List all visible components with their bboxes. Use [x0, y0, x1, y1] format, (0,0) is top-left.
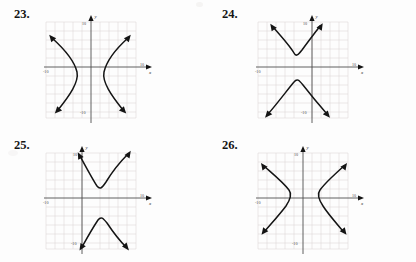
hyperbola-curves — [49, 35, 131, 114]
hyperbola-right-branch — [319, 166, 344, 231]
y-axis-name: y — [85, 145, 89, 150]
curve-arrow-upper-left — [261, 163, 268, 171]
y-negative-tick-label: -10 — [301, 110, 306, 115]
x-negative-tick-label: -10 — [43, 69, 48, 74]
hyperbola-lower-branch — [82, 218, 126, 247]
hyperbola-curves — [78, 151, 131, 251]
graph-25: 10 -10 -10 10 y x — [44, 150, 162, 254]
x-positive-tick-label: 10 — [140, 193, 144, 198]
grid-lines — [46, 153, 136, 249]
hyperbola-curves — [265, 23, 330, 118]
y-positive-tick-label: 10 — [294, 152, 298, 157]
y-axis-name: y — [94, 14, 98, 19]
problem-number: 23. — [14, 7, 30, 22]
curve-arrow-upper-right — [340, 163, 347, 171]
x-negative-tick-label: -10 — [255, 69, 260, 74]
graph-23: 10 -10 -10 10 y x — [44, 19, 162, 123]
y-negative-tick-label: -10 — [292, 241, 297, 246]
axis-labels: 10 -10 -10 10 y x — [255, 145, 364, 247]
y-negative-tick-label: -10 — [80, 110, 85, 115]
hyperbola-curves — [261, 163, 347, 235]
problem-24: 24. — [208, 0, 416, 131]
problem-number: 24. — [222, 7, 238, 22]
x-axis-name: x — [148, 70, 152, 75]
y-axis-name: y — [306, 145, 310, 150]
problem-23: 23. — [0, 0, 208, 131]
graph-24: 10 -10 -10 10 y x — [256, 19, 374, 123]
x-negative-tick-label: -10 — [255, 200, 260, 205]
problem-26: 26. — [208, 131, 416, 262]
x-axis-name: x — [360, 201, 364, 206]
y-positive-tick-label: 10 — [73, 152, 77, 157]
axis-labels: 10 -10 -10 10 y x — [43, 14, 152, 116]
x-axis-name: x — [360, 70, 364, 75]
x-axis-name: x — [148, 201, 152, 206]
y-positive-tick-label: 10 — [303, 21, 307, 26]
y-negative-tick-label: -10 — [71, 241, 76, 246]
hyperbola-left-branch — [264, 166, 290, 231]
graph-26: 10 -10 -10 10 y x — [256, 150, 374, 254]
y-axis-name: y — [315, 14, 319, 19]
exercise-page: 23. — [0, 0, 416, 262]
hyperbola-upper-branch — [273, 26, 320, 55]
x-positive-tick-label: 10 — [140, 62, 144, 67]
problem-number: 25. — [14, 138, 30, 153]
x-positive-tick-label: 10 — [352, 193, 356, 198]
curve-arrow-lower-left — [265, 110, 272, 117]
problem-number: 26. — [222, 138, 238, 153]
axis-labels: 10 -10 -10 10 y x — [43, 145, 152, 247]
grid-lines — [258, 22, 348, 118]
x-negative-tick-label: -10 — [43, 200, 48, 205]
y-positive-tick-label: 10 — [82, 21, 86, 26]
x-positive-tick-label: 10 — [352, 62, 356, 67]
curve-arrow-lower-left — [80, 243, 86, 251]
problem-25: 25. — [0, 131, 208, 262]
